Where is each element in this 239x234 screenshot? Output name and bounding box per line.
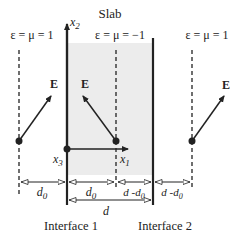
dim-d0-right-label: d0 [86,185,97,201]
dim-d-label: d [103,204,110,218]
e-label-right: E [222,78,230,92]
e-vector-left [19,96,51,141]
left-medium-label: ε = μ = 1 [10,28,53,42]
right-medium-label: ε = μ = 1 [185,28,228,42]
e-vector-right-origin [189,138,196,145]
dim-d0-left-label: d0 [37,185,48,201]
e-vector-right [192,96,224,141]
slab-title: Slab [98,6,121,21]
e-vector-slab-origin [113,138,120,145]
dim-d-minus-d0-slab-label: d -d0 [123,186,144,201]
slab-diagram: Slab ε = μ = 1 ε = μ = −1 ε = μ = 1 x2 x… [0,0,239,234]
origin-dot [64,146,71,153]
dim-d-minus-d0-right-label: d -d0 [161,186,182,201]
e-label-left: E [50,77,58,91]
interface-2-label: Interface 2 [138,219,192,233]
x3-label: x3 [52,152,63,168]
interface-1-label: Interface 1 [44,219,98,233]
slab-medium-label: ε = μ = −1 [95,28,145,42]
e-label-slab: E [81,77,89,91]
slab-region [67,43,153,175]
x2-label: x2 [69,15,80,31]
e-vector-left-origin [16,138,23,145]
